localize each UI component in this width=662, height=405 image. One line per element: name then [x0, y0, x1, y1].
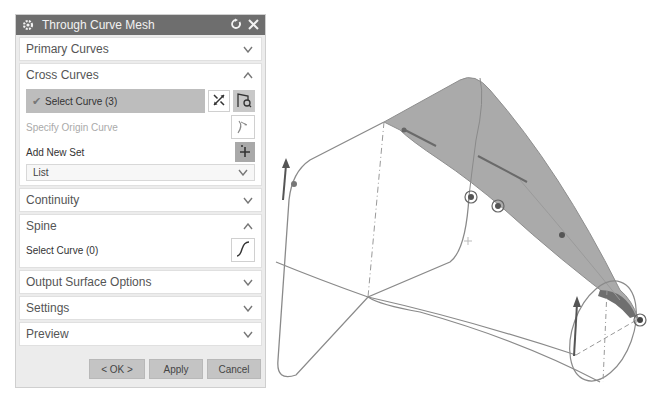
chevron-down-icon[interactable]: [243, 197, 253, 204]
spine-label: Spine: [26, 219, 57, 233]
specify-origin-label: Specify Origin Curve: [26, 122, 118, 133]
section-preview: Preview: [19, 322, 262, 346]
settings-label: Settings: [26, 301, 69, 315]
add-set-icon: [238, 144, 252, 160]
chevron-down-icon[interactable]: [243, 279, 253, 286]
add-new-set-label: Add New Set: [26, 147, 84, 158]
primary-curves-header[interactable]: Primary Curves: [20, 38, 261, 60]
select-curve-label: Select Curve (3): [45, 96, 117, 107]
spine-select-curve-button[interactable]: [231, 238, 255, 262]
cross-curves-label: Cross Curves: [26, 68, 99, 82]
mesh-surface: [384, 78, 638, 318]
select-curve-field[interactable]: ✔ Select Curve (3): [26, 89, 205, 113]
chevron-down-icon: [238, 169, 248, 176]
close-icon[interactable]: [248, 19, 259, 32]
output-surface-options-header[interactable]: Output Surface Options: [20, 271, 261, 293]
dialog-footer: < OK > Apply Cancel: [16, 351, 265, 387]
section-continuity: Continuity: [19, 188, 262, 212]
section-output-surface-options: Output Surface Options: [19, 270, 262, 294]
spline-curve-icon: [235, 240, 251, 260]
through-curve-mesh-dialog: Through Curve Mesh Primary Curves Cross …: [15, 14, 266, 388]
reverse-direction-icon: [212, 93, 226, 109]
checkmark-icon: ✔: [32, 95, 41, 108]
curve-rule-button[interactable]: [233, 90, 255, 112]
ok-button[interactable]: < OK >: [89, 359, 145, 379]
model-wireframe: [266, 0, 662, 405]
origin-curve-icon: [235, 118, 251, 136]
cross-curves-select-row: ✔ Select Curve (3): [20, 88, 261, 114]
gear-icon[interactable]: [22, 19, 34, 31]
dialog-title: Through Curve Mesh: [42, 18, 224, 32]
section-spine: Spine Select Curve (0): [19, 214, 262, 268]
curve-select-icon: [236, 92, 252, 110]
graphics-viewport[interactable]: [266, 0, 662, 405]
cancel-button[interactable]: Cancel: [207, 359, 261, 379]
chevron-down-icon[interactable]: [243, 46, 253, 53]
apply-button[interactable]: Apply: [149, 359, 203, 379]
output-surface-options-label: Output Surface Options: [26, 275, 151, 289]
cross-curves-header[interactable]: Cross Curves: [20, 64, 261, 86]
section-settings: Settings: [19, 296, 262, 320]
primary-curves-label: Primary Curves: [26, 42, 109, 56]
chevron-down-icon[interactable]: [243, 305, 253, 312]
specify-origin-row: Specify Origin Curve: [20, 114, 261, 140]
reverse-direction-button[interactable]: [208, 90, 230, 112]
preview-label: Preview: [26, 327, 69, 341]
add-new-set-button[interactable]: [235, 142, 255, 162]
chevron-up-icon[interactable]: [243, 223, 253, 230]
list-label: List: [33, 167, 49, 178]
spine-header[interactable]: Spine: [20, 215, 261, 237]
continuity-header[interactable]: Continuity: [20, 189, 261, 211]
specify-origin-button[interactable]: [231, 115, 255, 139]
preview-header[interactable]: Preview: [20, 323, 261, 345]
settings-header[interactable]: Settings: [20, 297, 261, 319]
add-new-set-row: Add New Set: [20, 140, 261, 164]
spine-select-row: Select Curve (0): [20, 237, 261, 267]
section-primary-curves: Primary Curves: [19, 37, 262, 61]
dialog-titlebar[interactable]: Through Curve Mesh: [16, 15, 265, 35]
spine-select-curve-label: Select Curve (0): [26, 245, 98, 256]
chevron-down-icon[interactable]: [243, 331, 253, 338]
continuity-label: Continuity: [26, 193, 79, 207]
chevron-up-icon[interactable]: [243, 72, 253, 79]
list-dropdown[interactable]: List: [26, 164, 255, 181]
reset-icon[interactable]: [230, 18, 242, 32]
section-cross-curves: Cross Curves ✔ Select Curve (3) Specify …: [19, 63, 262, 186]
